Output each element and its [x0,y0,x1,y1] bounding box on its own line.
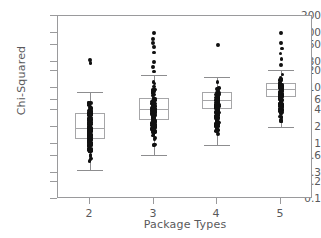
data-point [152,117,156,121]
outlier-point [152,51,156,55]
x-tick-label: 5 [265,207,295,220]
data-point [89,131,92,134]
y-tick-mark [50,70,57,71]
outlier-point [151,41,155,45]
data-point [87,127,91,131]
y-tick-mark [50,155,57,156]
y-tick-mark [50,126,57,127]
data-point [215,98,218,101]
data-point [216,80,220,84]
data-point [87,121,90,124]
data-point [89,118,92,121]
x-tick-mark [216,198,217,204]
outlier-point [152,70,156,74]
data-point [215,115,219,119]
outlier-point [216,43,220,47]
whisker-cap-lower [268,127,294,128]
data-point [87,135,91,139]
outlier-point [152,31,156,35]
data-point [153,110,157,114]
data-point [217,93,221,97]
data-point [152,144,156,148]
outlier-point [279,31,283,35]
plot-area [57,15,312,198]
outlier-point [152,45,156,49]
outlier-point [280,57,284,61]
data-point [153,123,157,127]
y-tick-mark [50,44,57,45]
boxplot-figure: Chi-Squared Package Types 20010060302010… [0,0,321,238]
whisker-cap-lower [77,170,103,171]
outlier-point [279,111,283,115]
data-point [152,80,155,83]
whisker-cap-upper [141,75,167,76]
whisker-cap-lower [141,155,167,156]
data-point [279,120,283,124]
y-axis-title: Chi-Squared [15,16,28,146]
whisker-cap-lower [204,145,230,146]
outlier-point [216,132,220,136]
outlier-point [279,63,283,67]
y-tick-mark [50,198,57,199]
data-point [153,138,156,141]
whisker-cap-upper [268,70,294,71]
y-tick-mark [50,15,57,16]
data-point [89,141,93,145]
data-point [278,95,282,99]
x-tick-label: 2 [74,207,104,220]
outlier-point [152,60,156,64]
whisker-cap-upper [204,77,230,78]
outlier-point [151,37,155,41]
outlier-point [280,47,284,51]
data-point [90,148,94,152]
x-tick-mark [89,198,90,204]
y-tick-mark [50,32,57,33]
x-tick-label: 3 [138,207,168,220]
data-point [279,79,282,82]
whisker-cap-upper [77,92,103,93]
y-tick-mark [50,109,57,110]
outlier-point [279,41,283,45]
outlier-point [151,65,155,69]
data-point [151,88,154,91]
y-tick-mark [50,87,57,88]
data-point [216,89,219,92]
outlier-point [279,52,283,56]
outlier-point [280,115,284,119]
x-tick-mark [153,198,154,204]
y-tick-mark [50,143,57,144]
y-tick-mark [50,99,57,100]
x-tick-mark [280,198,281,204]
y-tick-mark [50,61,57,62]
y-tick-mark [50,172,57,173]
y-tick-mark [50,181,57,182]
x-tick-label: 4 [201,207,231,220]
